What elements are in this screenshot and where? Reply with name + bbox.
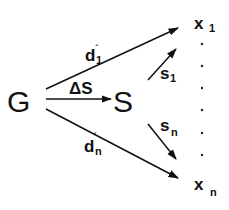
svg-text:´: ´ <box>95 42 99 54</box>
node-s: S <box>113 85 133 118</box>
svg-text:x: x <box>194 175 204 194</box>
svg-text:s: s <box>160 64 169 83</box>
node-xn: x n <box>194 175 217 198</box>
edge-label-dn: d ´ n <box>84 130 102 157</box>
svg-text:d: d <box>85 46 95 65</box>
svg-text:n: n <box>95 145 102 157</box>
svg-text:1: 1 <box>170 72 176 84</box>
svg-text:1: 1 <box>96 54 102 66</box>
edge-label-delta-s: ΔS <box>69 79 93 98</box>
edge-label-sn: s n <box>160 116 178 138</box>
node-g: G <box>7 85 30 118</box>
edge-label-s1: s 1 <box>160 64 176 84</box>
svg-text:n: n <box>171 126 178 138</box>
svg-text:n: n <box>210 186 217 198</box>
svg-text:´: ´ <box>93 130 97 142</box>
edge-label-d1: d ´ 1 <box>85 42 102 66</box>
diagram: G S x 1 x n d ´ 1 ΔS d ´ n s 1 <box>0 0 229 210</box>
svg-text:x: x <box>194 14 204 33</box>
svg-text:1: 1 <box>209 22 215 34</box>
node-x1: x 1 <box>194 14 215 34</box>
edge-g-to-xn-arrow <box>46 109 178 178</box>
edge-g-to-x1-arrow <box>46 28 178 89</box>
ellipsis-dots <box>201 43 203 156</box>
svg-text:s: s <box>160 116 169 135</box>
